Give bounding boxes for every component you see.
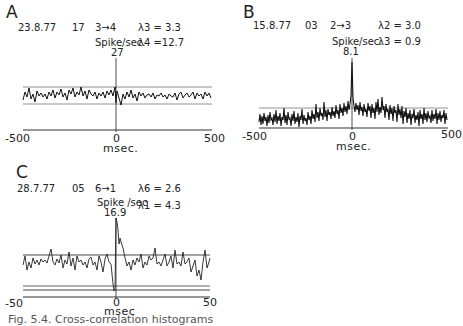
figure-caption: Fig. 5.4. Cross-correlation histograms <box>8 313 213 326</box>
panel-c-xtick-max: 50 <box>203 296 217 309</box>
panel-c-xtick-min: -50 <box>5 297 23 310</box>
